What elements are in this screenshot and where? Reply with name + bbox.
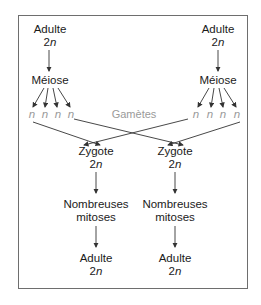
offspring-right-adult: Adulte 2n bbox=[159, 252, 192, 278]
gamete-right-4: n bbox=[234, 108, 240, 120]
parent-right-adult: Adulte 2n bbox=[202, 23, 235, 49]
offspring-right-mitoses: Nombreuses mitoses bbox=[142, 198, 207, 224]
offspring-left-adult: Adulte 2n bbox=[80, 252, 113, 278]
parent-left-meiosis: Méiose bbox=[31, 74, 68, 87]
stage-label: Adulte bbox=[34, 23, 67, 36]
gamete-right-1: n bbox=[193, 108, 199, 120]
ploidy-label: 2n bbox=[202, 36, 235, 49]
parent-left-adult: Adulte 2n bbox=[34, 23, 67, 49]
gamete-left-2: n bbox=[42, 108, 48, 120]
ploidy-label: 2n bbox=[34, 36, 67, 49]
offspring-left-zygote: Zygote 2n bbox=[78, 145, 113, 171]
ploidy-label: 2n bbox=[80, 265, 113, 278]
ploidy-label: 2n bbox=[159, 265, 192, 278]
gamete-left-4: n bbox=[68, 108, 74, 120]
gametes-label: Gamètes bbox=[112, 108, 157, 120]
offspring-right-zygote: Zygote 2n bbox=[157, 145, 192, 171]
gamete-right-3: n bbox=[220, 108, 226, 120]
stage-label: Adulte bbox=[202, 23, 235, 36]
parent-right-meiosis: Méiose bbox=[199, 74, 236, 87]
gamete-right-2: n bbox=[207, 108, 213, 120]
gamete-left-1: n bbox=[29, 108, 35, 120]
offspring-left-mitoses: Nombreuses mitoses bbox=[63, 198, 128, 224]
ploidy-label: 2n bbox=[157, 158, 192, 171]
gamete-left-3: n bbox=[55, 108, 61, 120]
ploidy-label: 2n bbox=[78, 158, 113, 171]
